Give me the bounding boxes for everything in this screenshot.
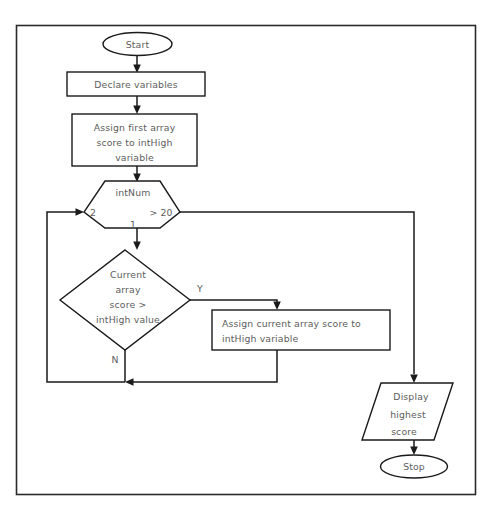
- loop-condition: > 20: [149, 207, 172, 218]
- assign-first-array-line3: variable: [115, 152, 154, 163]
- loop-variable-label: intNum: [116, 187, 151, 198]
- display-line2: highest: [390, 409, 426, 420]
- stop-label: Stop: [403, 461, 425, 472]
- flowchart-svg: Start Declare variables Assign first arr…: [0, 0, 494, 509]
- connector-assign-current-to-merge: [125, 350, 277, 386]
- decision-line2: array: [115, 284, 140, 295]
- edge-label-no: N: [111, 354, 118, 365]
- node-display-highest-score[interactable]: Display highest score: [362, 383, 453, 440]
- display-line3: score: [391, 426, 417, 437]
- assign-first-array-line2: score to intHigh: [96, 137, 172, 148]
- connector-start-to-declare: [133, 55, 141, 73]
- display-line1: Display: [393, 391, 429, 402]
- node-declare-variables[interactable]: Declare variables: [67, 72, 205, 96]
- connector-loop-exit-to-display: [180, 212, 418, 383]
- assign-current-array-shape: [212, 310, 390, 350]
- connector-assign-first-to-loop: [133, 166, 141, 182]
- node-assign-first-array[interactable]: Assign first array score to intHigh vari…: [72, 114, 197, 166]
- loop-step: 1: [130, 219, 136, 230]
- connector-display-to-stop: [410, 440, 418, 455]
- node-assign-current-array[interactable]: Assign current array score to intHigh va…: [212, 310, 390, 350]
- node-stop[interactable]: Stop: [381, 455, 448, 478]
- declare-variables-label: Declare variables: [94, 79, 177, 90]
- decision-line3: score >: [110, 299, 147, 310]
- flowchart-canvas: Start Declare variables Assign first arr…: [0, 0, 494, 509]
- assign-current-array-line2: intHigh variable: [222, 333, 298, 344]
- connector-declare-to-assign-first: [133, 96, 141, 114]
- loop-start-value: 2: [90, 207, 96, 218]
- assign-current-array-line1: Assign current array score to: [222, 318, 361, 329]
- decision-line1: Current: [110, 269, 146, 280]
- connector-decision-yes-to-assign-current: [190, 300, 281, 310]
- node-start[interactable]: Start: [103, 33, 172, 56]
- node-decision-current-vs-high[interactable]: Current array score > intHigh value: [60, 250, 190, 350]
- edge-label-yes: Y: [196, 283, 203, 294]
- decision-line4: intHigh value: [96, 314, 160, 325]
- node-loop-intnum[interactable]: intNum 2 > 20 1: [84, 181, 180, 230]
- assign-first-array-line1: Assign first array: [94, 122, 176, 133]
- connector-loop-to-decision: [133, 228, 141, 250]
- start-label: Start: [126, 39, 150, 50]
